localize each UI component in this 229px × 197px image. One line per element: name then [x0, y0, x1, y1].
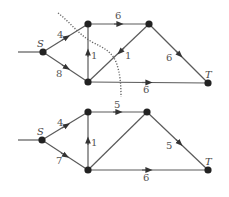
- edge-label-a-b: 5: [114, 99, 120, 110]
- node-b: [143, 108, 150, 115]
- node-s: [39, 48, 46, 55]
- edge-label-s-c: 8: [56, 68, 62, 79]
- edge-label-c-a: 1: [91, 50, 97, 61]
- node-t: [204, 79, 211, 86]
- edge-label-b-t: 5: [166, 140, 172, 151]
- node-t: [204, 166, 211, 173]
- edge-label-s-a: 4: [57, 117, 63, 128]
- arrow-icon: [176, 51, 180, 55]
- edge-label-b-c: 1: [125, 50, 131, 61]
- edge-label-c-a: 1: [91, 137, 97, 148]
- node-c: [84, 166, 91, 173]
- arrow-icon: [120, 48, 124, 52]
- edge-label-a-b: 6: [115, 10, 121, 21]
- edge-label-c-t: 6: [143, 172, 149, 183]
- edge-label-s-a: 4: [57, 29, 63, 40]
- edge-label-s-c: 7: [56, 155, 62, 166]
- node-a: [84, 108, 91, 115]
- arrow-icon: [176, 140, 180, 144]
- node-label-t: T: [205, 156, 213, 167]
- node-b: [145, 20, 152, 27]
- node-label-t: T: [205, 69, 213, 80]
- node-label-s: S: [37, 38, 44, 49]
- arrow-icon: [62, 65, 67, 68]
- node-c: [84, 78, 91, 85]
- node-a: [84, 20, 91, 27]
- network-flow-diagram: S T 4 8 6 1 1 6 6 S T 4 7 5 1: [0, 0, 229, 197]
- node-label-s: S: [37, 126, 44, 137]
- bottom-network: S T 4 7 5 1 5 6: [18, 99, 213, 183]
- edge-label-b-t: 6: [166, 52, 172, 63]
- node-s: [38, 136, 45, 143]
- top-network: S T 4 8 6 1 1 6 6: [18, 10, 213, 97]
- edge-label-c-t: 6: [143, 84, 149, 95]
